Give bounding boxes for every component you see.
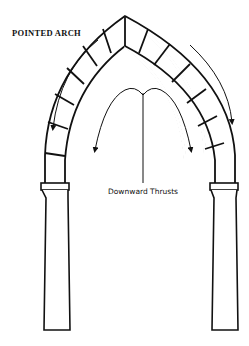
- right-column: [210, 183, 238, 330]
- left-thrust-arrow: [53, 40, 98, 128]
- pointed-arch-diagram: [0, 0, 249, 346]
- left-column: [41, 183, 70, 330]
- downward-thrusts-label: Downward Thrusts: [108, 187, 178, 196]
- arch-outline: [45, 16, 235, 183]
- downward-thrust-arrows: [95, 88, 191, 183]
